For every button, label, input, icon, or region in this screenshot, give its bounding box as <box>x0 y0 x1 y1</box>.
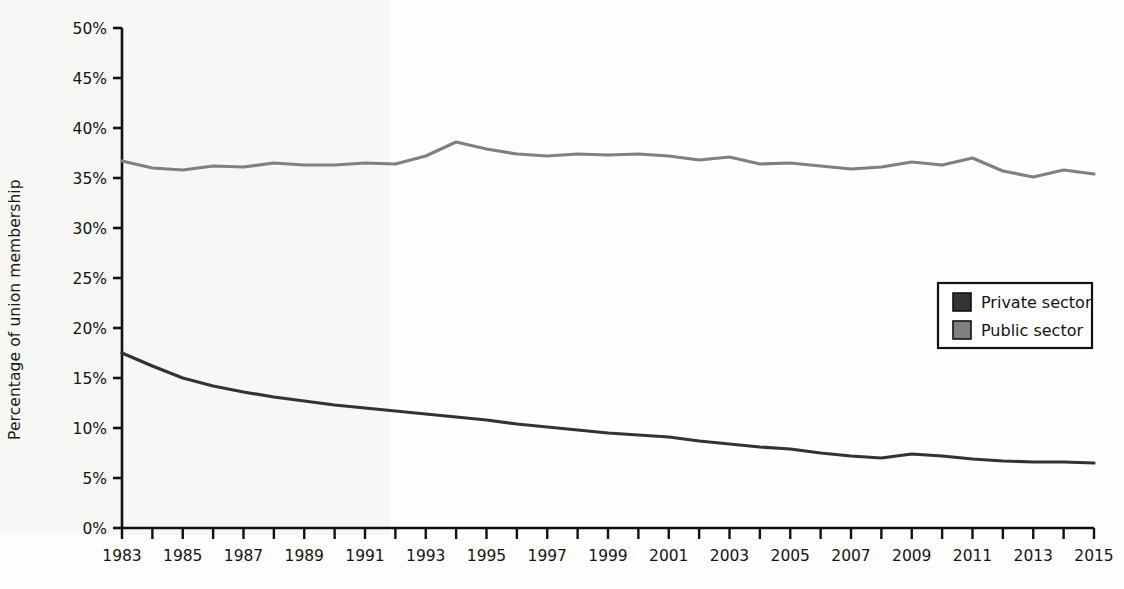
y-axis-tick-label: 0% <box>82 520 107 538</box>
y-axis-tick-label: 40% <box>73 120 107 138</box>
x-axis-tick-label: 1999 <box>588 547 627 565</box>
y-axis-tick-label: 35% <box>73 170 107 188</box>
legend-swatch-public[interactable] <box>953 321 971 339</box>
legend-label-public-sector[interactable]: Public sector <box>981 321 1083 340</box>
y-axis-tick-label: 20% <box>73 320 107 338</box>
y-axis-tick-label: 10% <box>73 420 107 438</box>
series-line-public-sector <box>122 142 1094 177</box>
x-axis-tick-label: 1995 <box>467 547 506 565</box>
y-axis-tick-label: 5% <box>82 470 107 488</box>
y-axis-tick-label: 50% <box>73 20 107 38</box>
x-axis-tick-label: 2015 <box>1074 547 1113 565</box>
legend-label-private-sector[interactable]: Private sector <box>981 293 1092 312</box>
x-axis-tick-label: 1985 <box>163 547 202 565</box>
x-axis-tick-label: 1997 <box>528 547 567 565</box>
x-axis-tick-label: 2001 <box>649 547 688 565</box>
x-axis-tick-label: 2007 <box>831 547 870 565</box>
x-axis-tick-label: 2003 <box>710 547 749 565</box>
x-axis-tick-label: 1991 <box>345 547 384 565</box>
x-axis-tick-label: 1989 <box>285 547 324 565</box>
y-axis-tick-label: 30% <box>73 220 107 238</box>
x-axis-tick-label: 1993 <box>406 547 445 565</box>
y-axis-tick-label: 45% <box>73 70 107 88</box>
x-axis-tick-label: 2013 <box>1014 547 1053 565</box>
x-axis-tick-label: 2009 <box>892 547 931 565</box>
series-line-private-sector <box>122 353 1094 463</box>
chart-plot-area: 0%5%10%15%20%25%30%35%40%45%50%198319851… <box>0 0 1124 589</box>
legend-swatch-private[interactable] <box>953 293 971 311</box>
x-axis-tick-label: 1983 <box>102 547 141 565</box>
y-axis-tick-label: 15% <box>73 370 107 388</box>
x-axis-tick-label: 2005 <box>771 547 810 565</box>
y-axis-tick-label: 25% <box>73 270 107 288</box>
x-axis-tick-label: 2011 <box>953 547 992 565</box>
x-axis-tick-label: 1987 <box>224 547 263 565</box>
union-membership-chart: Percentage of union membership 0%5%10%15… <box>0 0 1124 589</box>
